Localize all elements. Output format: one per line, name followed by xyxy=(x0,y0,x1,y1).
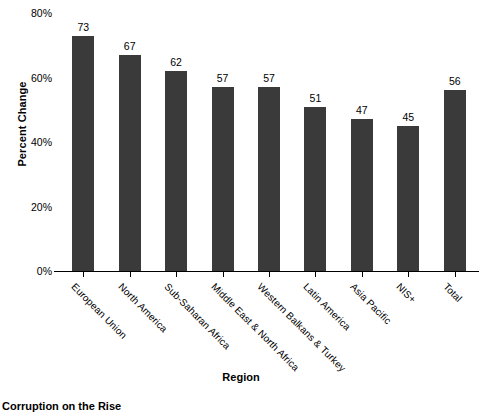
bar-group: 45 xyxy=(397,13,419,271)
x-axis-category-label: Total xyxy=(441,281,464,304)
bar xyxy=(119,55,141,271)
bar-group: 67 xyxy=(119,13,141,271)
y-axis-tick-labels: 0%20%40%60%80% xyxy=(8,0,52,419)
x-axis-tick-mark xyxy=(83,272,84,277)
y-axis-tick-label: 0% xyxy=(12,266,52,277)
x-axis-category-label: Western Balkans & Turkey xyxy=(255,281,348,374)
bar xyxy=(444,90,466,271)
x-axis-title: Region xyxy=(0,371,482,383)
bar xyxy=(351,119,373,271)
x-axis-tick-mark xyxy=(408,272,409,277)
bar-value-label: 73 xyxy=(63,22,103,33)
bar xyxy=(304,107,326,271)
y-axis-tick-mark xyxy=(54,271,59,272)
bar-value-label: 45 xyxy=(388,112,428,123)
bar-value-label: 67 xyxy=(110,41,150,52)
x-axis-tick-mark xyxy=(130,272,131,277)
x-axis-tick-mark xyxy=(455,272,456,277)
bar-group: 56 xyxy=(444,13,466,271)
bar xyxy=(72,36,94,271)
bar-value-label: 51 xyxy=(295,93,335,104)
bar-chart: Percent Change 0%20%40%60%80% 7367625757… xyxy=(0,0,482,419)
x-axis-tick-mark xyxy=(176,272,177,277)
x-axis-category-label: Asia Pacific xyxy=(348,281,394,327)
bar xyxy=(212,87,234,271)
bar-value-label: 56 xyxy=(435,76,475,87)
y-axis-tick-label: 20% xyxy=(12,202,52,213)
x-axis-category-label: Latin America xyxy=(301,281,353,333)
bar-value-label: 57 xyxy=(203,73,243,84)
bar-group: 57 xyxy=(258,13,280,271)
plot-area: 736762575751474556 xyxy=(60,13,478,271)
bar-group: 73 xyxy=(72,13,94,271)
y-axis-tick-label: 40% xyxy=(12,137,52,148)
x-axis-tick-mark xyxy=(269,272,270,277)
x-axis-tick-mark xyxy=(223,272,224,277)
chart-caption: Corruption on the Rise xyxy=(2,400,121,412)
bar-group: 51 xyxy=(304,13,326,271)
bar-group: 47 xyxy=(351,13,373,271)
x-axis-tick-mark xyxy=(315,272,316,277)
bar-value-label: 62 xyxy=(156,57,196,68)
bar xyxy=(397,126,419,271)
bar-group: 62 xyxy=(165,13,187,271)
x-axis-category-label: Middle East & North Africa xyxy=(208,281,301,374)
y-axis-tick-label: 60% xyxy=(12,73,52,84)
bar xyxy=(258,87,280,271)
bar-group: 57 xyxy=(212,13,234,271)
bar xyxy=(165,71,187,271)
y-axis-tick-label: 80% xyxy=(12,8,52,19)
x-axis-category-label: NIS+ xyxy=(394,281,418,305)
x-axis-tick-mark xyxy=(362,272,363,277)
bar-value-label: 47 xyxy=(342,105,382,116)
bar-value-label: 57 xyxy=(249,73,289,84)
